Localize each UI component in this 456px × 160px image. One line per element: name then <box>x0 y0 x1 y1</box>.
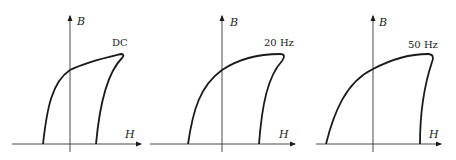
h-axis-label: H <box>124 128 135 141</box>
panel-20hz: B H 20 Hz <box>150 16 295 152</box>
b-axis-label: B <box>76 15 85 28</box>
hysteresis-figure: B H DC B H 20 Hz B H 50 Hz <box>0 0 456 160</box>
b-axis-label: B <box>229 16 238 29</box>
hysteresis-loop <box>188 54 284 144</box>
h-axis-label: H <box>428 128 439 141</box>
hysteresis-loop <box>326 54 433 144</box>
frequency-label: 50 Hz <box>408 39 438 50</box>
frequency-label: DC <box>112 37 128 48</box>
panel-dc: B H DC <box>12 15 141 152</box>
b-axis-label: B <box>378 16 387 29</box>
hysteresis-loop <box>43 54 123 144</box>
panel-50hz: B H 50 Hz <box>316 16 441 152</box>
h-axis-label: H <box>278 128 289 141</box>
frequency-label: 20 Hz <box>264 37 294 48</box>
